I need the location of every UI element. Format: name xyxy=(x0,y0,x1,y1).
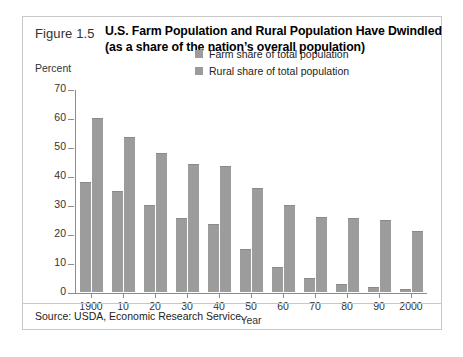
y-tick-label: 50 xyxy=(54,140,66,152)
x-tick-mark xyxy=(219,293,220,298)
bar-farm-2000 xyxy=(400,289,411,292)
y-tick-label: 60 xyxy=(54,111,66,123)
bar-group xyxy=(208,89,231,292)
bar-rural-10 xyxy=(124,137,135,292)
bar-group xyxy=(240,89,263,292)
bar-rural-50 xyxy=(252,188,263,292)
bar-farm-1900 xyxy=(80,182,91,292)
bar-group xyxy=(176,89,199,292)
y-tick-mark xyxy=(68,206,74,207)
y-tick-mark xyxy=(68,119,74,120)
x-tick-mark xyxy=(283,293,284,298)
y-tick-label: 30 xyxy=(54,198,66,210)
y-axis-line xyxy=(75,90,76,294)
bar-rural-40 xyxy=(220,166,231,292)
y-tick-mark xyxy=(68,177,74,178)
legend-label: Rural share of total population xyxy=(209,65,349,77)
bar-group xyxy=(304,89,327,292)
x-tick-mark xyxy=(123,293,124,298)
figure-container: Figure 1.5 U.S. Farm Population and Rura… xyxy=(22,16,442,330)
y-tick-label: 70 xyxy=(54,82,66,94)
x-tick-mark xyxy=(347,293,348,298)
y-tick-label: 0 xyxy=(60,285,66,297)
x-tick-mark xyxy=(91,293,92,298)
source-note: Source: USDA, Economic Research Service. xyxy=(35,310,244,322)
bar-rural-1900 xyxy=(92,118,103,292)
y-tick-mark xyxy=(68,264,74,265)
legend-item-farm: Farm share of total population xyxy=(195,47,349,61)
bar-rural-2000 xyxy=(412,231,423,292)
bar-farm-60 xyxy=(272,267,283,292)
bar-group xyxy=(336,89,359,292)
bar-rural-80 xyxy=(348,218,359,292)
x-tick-mark xyxy=(187,293,188,298)
y-axis-title: Percent xyxy=(35,62,71,74)
bar-farm-50 xyxy=(240,249,251,293)
y-tick-label: 40 xyxy=(54,169,66,181)
figure-number: Figure 1.5 xyxy=(35,26,95,41)
legend-item-rural: Rural share of total population xyxy=(195,64,349,78)
legend-swatch-icon xyxy=(195,67,203,75)
bar-group xyxy=(112,89,135,292)
bar-group xyxy=(80,89,103,292)
y-tick-mark xyxy=(68,293,74,294)
legend-swatch-icon xyxy=(195,50,203,58)
y-tick-label: 20 xyxy=(54,227,66,239)
bar-farm-20 xyxy=(144,205,155,292)
bar-rural-20 xyxy=(156,153,167,292)
x-tick-mark xyxy=(379,293,380,298)
bar-group xyxy=(144,89,167,292)
figure-footer: Source: USDA, Economic Research Service. xyxy=(23,303,441,329)
bar-farm-80 xyxy=(336,284,347,292)
bar-farm-40 xyxy=(208,224,219,292)
x-tick-mark xyxy=(155,293,156,298)
bar-rural-70 xyxy=(316,217,327,292)
figure-title-line-1: U.S. Farm Population and Rural Populatio… xyxy=(105,24,435,40)
bar-rural-30 xyxy=(188,164,199,292)
plot-area: 010203040506070 190010203040506070809020… xyxy=(75,90,427,293)
bar-farm-10 xyxy=(112,191,123,293)
bar-farm-70 xyxy=(304,278,315,292)
legend-label: Farm share of total population xyxy=(209,48,349,60)
x-tick-mark xyxy=(251,293,252,298)
bar-group xyxy=(368,89,391,292)
y-tick-mark xyxy=(68,90,74,91)
bar-group xyxy=(400,89,423,292)
chart-legend: Farm share of total populationRural shar… xyxy=(195,47,349,81)
x-tick-mark xyxy=(411,293,412,298)
bar-rural-90 xyxy=(380,220,391,293)
bar-farm-90 xyxy=(368,287,379,293)
bar-group xyxy=(272,89,295,292)
y-tick-mark xyxy=(68,235,74,236)
x-tick-mark xyxy=(315,293,316,298)
y-tick-label: 10 xyxy=(54,256,66,268)
bar-farm-30 xyxy=(176,218,187,292)
y-tick-mark xyxy=(68,148,74,149)
bar-rural-60 xyxy=(284,205,295,292)
